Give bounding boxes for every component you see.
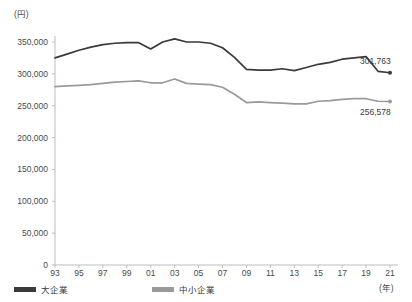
series-end-label-large: 301,763 — [360, 56, 391, 66]
legend-item-large-enterprise: 大企業 — [14, 283, 68, 295]
series-end-marker-1 — [388, 100, 392, 104]
series-line-0 — [55, 39, 390, 73]
legend-swatch-sme — [152, 287, 174, 292]
series-end-marker-0 — [388, 71, 392, 75]
legend-swatch-large-enterprise — [14, 287, 36, 292]
legend-label-sme: 中小企業 — [179, 283, 215, 295]
legend-item-sme: 中小企業 — [152, 283, 215, 295]
legend-label-large-enterprise: 大企業 — [41, 283, 68, 295]
chart-legend: 大企業 中小企業 — [0, 283, 412, 297]
series-end-label-small: 256,578 — [360, 107, 391, 117]
plot-area — [0, 0, 412, 302]
series-line-1 — [55, 79, 390, 104]
line-chart: (円) (年) 050,000100,000150,000200,000250,… — [0, 0, 412, 302]
